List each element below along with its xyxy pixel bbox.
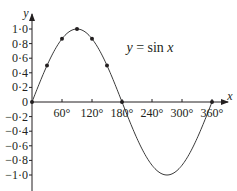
y-tick-label: −1·0 — [5, 168, 28, 182]
data-point — [30, 100, 34, 104]
y-tick-label: 0·8 — [12, 37, 28, 51]
x-axis-label: x — [226, 89, 233, 103]
x-tick-label: 60° — [54, 106, 71, 120]
x-tick-label: 120° — [81, 106, 104, 120]
y-tick-label: 0·4 — [12, 66, 28, 80]
x-tick-label: 300° — [171, 106, 194, 120]
y-tick-label: −0·8 — [5, 153, 28, 167]
data-point — [105, 64, 109, 68]
data-point — [75, 27, 79, 31]
y-tick-label: −0·2 — [5, 110, 28, 124]
y-tick-label: 0 — [22, 95, 28, 109]
y-tick-label: 1·0 — [12, 22, 28, 36]
data-point — [45, 64, 49, 68]
y-axis-arrow-icon — [29, 13, 35, 21]
y-axis-label: y — [22, 6, 29, 20]
y-tick-label: −0·6 — [5, 139, 28, 153]
x-tick-label: 180° — [111, 106, 134, 120]
y-tick-label: 0·6 — [12, 51, 28, 65]
data-point — [90, 37, 94, 41]
data-point — [60, 37, 64, 41]
y-tick-label: 0·2 — [12, 80, 28, 94]
marked-points — [30, 27, 214, 104]
x-tick-label: 240° — [141, 106, 164, 120]
x-tick-label: 360° — [201, 106, 224, 120]
data-point — [210, 100, 214, 104]
y-tick-label: −0·4 — [5, 124, 28, 138]
equation-label: y = sin x — [124, 40, 174, 55]
sine-chart: 1·00·80·60·40·20−0·2−0·4−0·6−0·8−1·060°1… — [0, 0, 237, 191]
data-point — [120, 100, 124, 104]
